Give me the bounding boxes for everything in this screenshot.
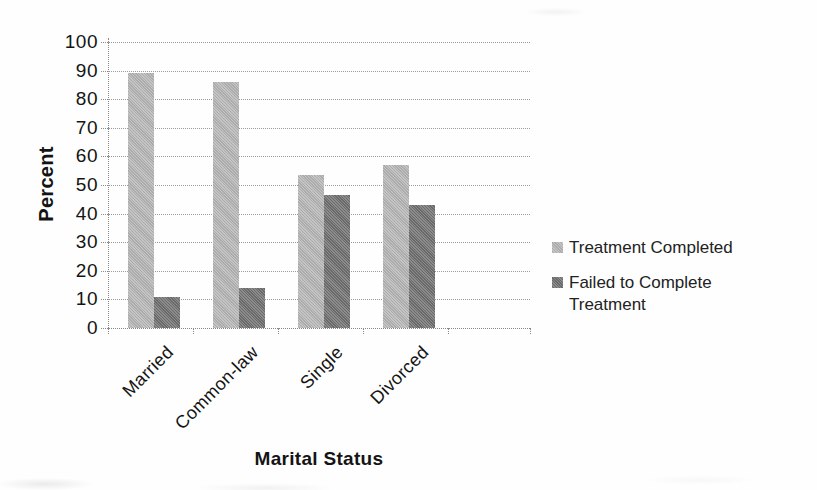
y-axis-tick [101,99,108,100]
y-axis-tick [101,71,108,72]
y-axis-tick [101,299,108,300]
gridline [108,71,530,72]
y-axis-tick [101,214,108,215]
x-axis-tick [278,328,279,334]
bar [409,205,435,328]
y-axis-tick [101,185,108,186]
y-axis-tick [101,242,108,243]
y-axis-tick [101,328,108,329]
x-category-label: Common-law [171,342,263,434]
legend-swatch [552,277,563,288]
y-tick-label: 80 [0,88,98,110]
legend-swatch [552,242,563,253]
x-category-label: Single [296,342,348,394]
y-tick-label: 10 [0,288,98,310]
bar [239,288,265,328]
x-axis-tick [530,328,531,334]
gridline [108,328,530,329]
y-axis-tick [101,271,108,272]
gridline [108,156,530,157]
bar [154,297,180,328]
y-tick-label: 70 [0,117,98,139]
bar [213,82,239,328]
y-axis-tick [101,128,108,129]
y-tick-label: 90 [0,60,98,82]
bar [128,73,154,328]
y-tick-label: 100 [0,31,98,53]
legend: Treatment CompletedFailed to Complete Tr… [552,237,764,329]
x-axis-tick [108,328,109,334]
y-axis-title-text: Percent [35,146,58,221]
bar [383,165,409,328]
x-axis-tick [448,328,449,334]
bar [324,195,350,328]
x-axis-tick [363,328,364,334]
legend-label: Treatment Completed [569,237,733,259]
y-axis-tick [101,42,108,43]
gridline [108,128,530,129]
y-tick-label: 20 [0,260,98,282]
gridline [108,42,530,43]
y-tick-label: 30 [0,231,98,253]
y-axis-tick [101,156,108,157]
y-axis-line [108,38,109,328]
y-tick-label: 0 [0,317,98,339]
scanned-bar-chart-page: 0102030405060708090100 Percent Marital S… [0,0,817,490]
x-category-label: Divorced [366,342,433,409]
legend-label: Failed to Complete Treatment [569,272,749,316]
plot-area [108,42,530,328]
legend-item: Treatment Completed [552,237,764,259]
x-axis-tick [193,328,194,334]
bar [298,175,324,328]
y-axis-tick-labels: 0102030405060708090100 [0,0,100,490]
gridline [108,99,530,100]
x-category-label: Married [118,342,177,401]
legend-item: Failed to Complete Treatment [552,272,764,316]
x-axis-title: Marital Status [108,448,530,470]
